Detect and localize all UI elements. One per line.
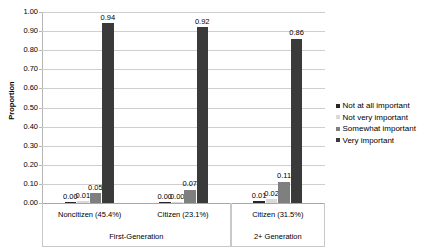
legend-swatch-icon [336, 104, 340, 108]
bar [90, 193, 102, 203]
y-axis-tick-label: 0.70 [4, 65, 38, 73]
y-axis-tick-label: 0.10 [4, 180, 38, 188]
x-axis-group: Citizen (31.5%)2+ Generation [231, 203, 325, 247]
legend-label: Not at all important [343, 101, 410, 110]
y-axis-tick-label: 1.00 [4, 8, 38, 16]
bar [184, 190, 196, 203]
x-axis-category-row: Noncitizen (45.4%)Citizen (23.1%) [43, 203, 230, 225]
y-axis-tick-label: 0.50 [4, 104, 38, 112]
y-axis-tick-label: 0.80 [4, 46, 38, 54]
x-axis-group-label: 2+ Generation [232, 225, 324, 247]
bar-value-label: 0.92 [189, 18, 215, 26]
x-axis: Noncitizen (45.4%)Citizen (23.1%)First-G… [42, 203, 325, 248]
bar [278, 182, 290, 203]
y-axis-tick-labels: 0.000.100.200.300.400.500.600.700.800.90… [0, 12, 38, 203]
bar-value-label: 0.94 [95, 14, 121, 22]
legend-swatch-icon [336, 138, 340, 142]
legend-item[interactable]: Not at all important [336, 100, 432, 112]
y-axis-tick-label: 0.30 [4, 142, 38, 150]
legend-swatch-icon [336, 115, 340, 119]
bar [197, 27, 209, 203]
bar [291, 39, 303, 203]
chart-legend: Not at all importantNot very importantSo… [336, 100, 432, 146]
y-axis-tick-label: 0.40 [4, 123, 38, 131]
x-axis-category-row: Citizen (31.5%) [232, 203, 324, 225]
plot-bars: 0.000.010.050.940.000.000.070.920.010.02… [42, 12, 325, 203]
x-axis-group-label: First-Generation [43, 225, 230, 247]
legend-swatch-icon [336, 127, 340, 131]
y-axis-tick-label: 0.60 [4, 84, 38, 92]
legend-item[interactable]: Somewhat important [336, 123, 432, 135]
x-axis-category-label: Noncitizen (45.4%) [43, 203, 136, 225]
legend-item[interactable]: Not very important [336, 112, 432, 124]
y-axis-tick-label: 0.20 [4, 161, 38, 169]
y-axis-tick-label: 0.90 [4, 27, 38, 35]
y-axis-tick-label: 0.00 [4, 199, 38, 207]
bar [102, 23, 114, 203]
x-axis-category-label: Citizen (23.1%) [136, 203, 229, 225]
bar-value-label: 0.86 [284, 29, 310, 37]
legend-item[interactable]: Very important [336, 135, 432, 147]
bar-chart: Proportion 0.000.100.200.300.400.500.600… [0, 0, 433, 249]
legend-label: Not very important [343, 113, 408, 122]
x-axis-group: Noncitizen (45.4%)Citizen (23.1%)First-G… [42, 203, 231, 247]
legend-label: Very important [343, 136, 395, 145]
legend-label: Somewhat important [343, 124, 416, 133]
x-axis-category-label: Citizen (31.5%) [232, 203, 324, 225]
